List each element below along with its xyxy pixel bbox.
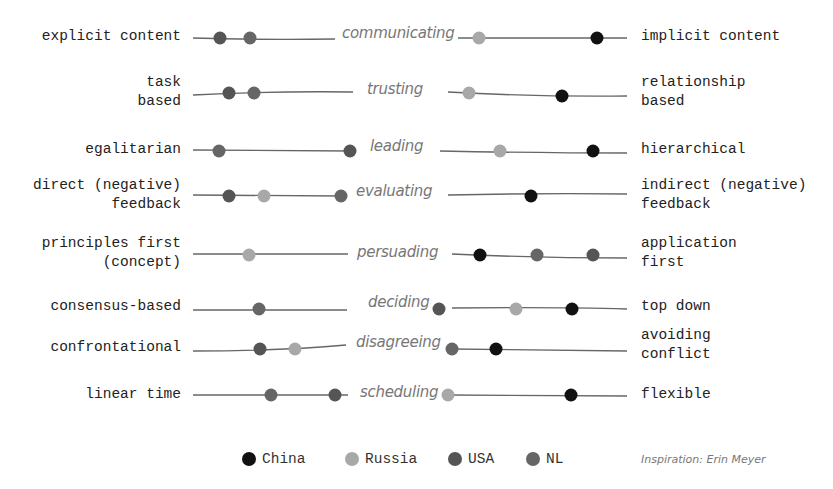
data-point-usa-deciding [433,303,446,316]
data-point-russia-trusting [463,87,476,100]
data-point-usa-leading [344,145,357,158]
data-point-russia-deciding [510,303,523,316]
right-label-trusting: relationship based [641,73,745,111]
right-label-communicating: implicit content [641,27,780,46]
left-label-deciding: consensus-based [50,297,181,316]
left-label-communicating: explicit content [42,27,181,46]
data-point-usa-evaluating [223,190,236,203]
data-point-russia-scheduling [442,389,455,402]
usa-dot-icon [448,452,462,466]
left-label-leading: egalitarian [85,140,181,159]
dimension-evaluating: evaluating [356,182,432,200]
legend-item-usa: USA [448,451,494,467]
data-point-china-trusting [556,90,569,103]
legend-label: Russia [365,451,417,467]
legend-item-nl: NL [526,451,563,467]
data-point-nl-evaluating [335,190,348,203]
right-label-persuading: application first [641,234,737,272]
legend-label: NL [546,451,563,467]
right-label-evaluating: indirect (negative) feedback [641,176,806,214]
data-point-china-communicating [591,32,604,45]
legend-label: China [262,451,306,467]
data-point-usa-disagreeing [254,343,267,356]
data-point-nl-trusting [248,87,261,100]
nl-dot-icon [526,452,540,466]
left-label-scheduling: linear time [85,385,181,404]
right-label-deciding: top down [641,297,711,316]
data-point-russia-communicating [473,32,486,45]
china-dot-icon [242,452,256,466]
dimension-scheduling: scheduling [360,383,438,401]
dimension-leading: leading [370,137,423,155]
data-point-russia-disagreeing [289,343,302,356]
data-point-usa-communicating [214,32,227,45]
dimension-communicating: communicating [342,24,454,42]
left-label-trusting: task based [137,73,181,111]
dimension-deciding: deciding [368,293,429,311]
data-point-nl-communicating [244,32,257,45]
left-label-evaluating: direct (negative) feedback [33,176,181,214]
legend-item-russia: Russia [345,451,417,467]
legend-item-china: China [242,451,306,467]
russia-dot-icon [345,452,359,466]
left-label-disagreeing: confrontational [50,338,181,357]
left-label-persuading: principles first (concept) [42,234,181,272]
right-label-disagreeing: avoiding conflict [641,326,711,364]
data-point-nl-persuading [531,249,544,262]
dimension-disagreeing: disagreeing [356,333,441,351]
right-label-scheduling: flexible [641,385,711,404]
data-point-china-evaluating [525,190,538,203]
data-point-china-persuading [474,249,487,262]
legend-label: USA [468,451,494,467]
data-point-china-leading [587,145,600,158]
data-point-nl-deciding [253,303,266,316]
data-point-russia-persuading [243,249,256,262]
data-point-usa-persuading [587,249,600,262]
data-point-russia-evaluating [258,190,271,203]
data-point-china-deciding [566,303,579,316]
data-point-china-scheduling [565,389,578,402]
dimension-persuading: persuading [357,243,438,261]
data-point-russia-leading [494,145,507,158]
data-point-usa-trusting [223,87,236,100]
data-point-china-disagreeing [490,343,503,356]
right-label-leading: hierarchical [641,140,745,159]
data-point-usa-scheduling [329,389,342,402]
data-point-nl-disagreeing [446,343,459,356]
dimension-trusting: trusting [367,80,423,98]
data-point-nl-leading [213,145,226,158]
credit-text: Inspiration: Erin Meyer [641,453,766,466]
data-point-nl-scheduling [265,389,278,402]
